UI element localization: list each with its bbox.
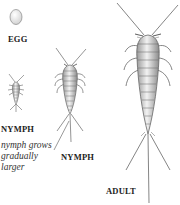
small-nymph-label: NYMPH xyxy=(1,124,34,134)
caption-pointer-line xyxy=(54,121,69,150)
egg-icon xyxy=(10,10,22,25)
small-nymph-icon xyxy=(8,74,24,112)
life-cycle-illustration xyxy=(0,0,180,205)
caption-line: larger xyxy=(1,162,52,173)
egg-label: EGG xyxy=(8,34,28,44)
adult-label: ADULT xyxy=(106,186,136,196)
medium-nymph-icon xyxy=(55,48,86,142)
medium-nymph-label: NYMPH xyxy=(61,152,94,162)
caption-line: gradually xyxy=(1,151,52,162)
growth-caption: nymph grows gradually larger xyxy=(1,140,52,173)
caption-line: nymph grows xyxy=(1,140,52,151)
adult-icon xyxy=(117,3,178,203)
